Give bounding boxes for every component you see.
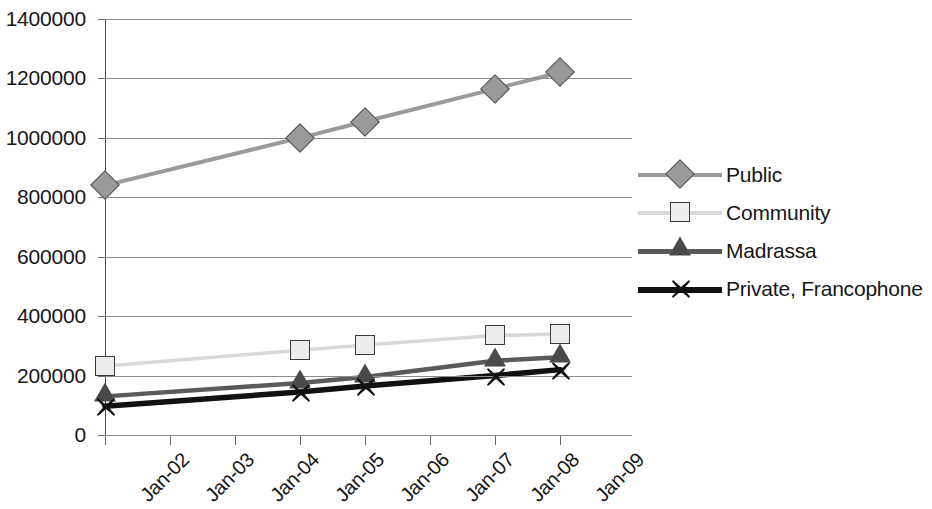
legend-item-madrassa[interactable]: Madrassa — [638, 231, 932, 269]
data-point-marker — [545, 58, 575, 88]
x-tick-label: Jan-09 — [591, 449, 647, 505]
marker-layer — [105, 19, 632, 435]
y-tick-label: 1400000 — [6, 8, 96, 29]
data-point-marker — [480, 74, 510, 104]
x-tick-label: Jan-03 — [201, 449, 257, 505]
data-point-marker — [354, 375, 376, 397]
y-tick-label: 200000 — [17, 365, 96, 386]
data-point-marker — [290, 340, 310, 360]
x-tick-mark — [235, 436, 236, 445]
data-point-marker — [485, 325, 505, 345]
x-tick-mark — [560, 436, 561, 445]
x-tick-mark — [300, 436, 301, 445]
x-tick-mark — [365, 436, 366, 445]
x-tick-label: Jan-05 — [331, 449, 387, 505]
data-point-marker — [484, 365, 506, 387]
legend-marker-x — [669, 277, 691, 299]
chart-legend: PublicCommunityMadrassaPrivate, Francoph… — [638, 155, 932, 307]
legend-key — [638, 273, 722, 303]
y-tick-label: 400000 — [17, 305, 96, 326]
y-tick-label: 1000000 — [6, 127, 96, 148]
data-point-marker — [484, 347, 506, 366]
y-tick-label: 0 — [75, 424, 96, 445]
x-tick-label: Jan-04 — [266, 449, 322, 505]
x-tick-mark — [170, 436, 171, 445]
data-point-marker — [350, 107, 380, 137]
y-axis-tick-labels: 1400000120000010000008000006000004000002… — [0, 0, 96, 509]
data-point-marker — [94, 395, 116, 417]
data-point-marker — [550, 324, 570, 344]
y-tick-label: 1200000 — [6, 67, 96, 88]
legend-label: Public — [726, 164, 782, 185]
legend-item-private-francophone[interactable]: Private, Francophone — [638, 269, 932, 307]
y-tick-label: 600000 — [17, 246, 96, 267]
x-tick-label: Jan-02 — [136, 449, 192, 505]
line-chart: 1400000120000010000008000006000004000002… — [0, 0, 932, 509]
legend-label: Madrassa — [726, 240, 817, 261]
legend-item-public[interactable]: Public — [638, 155, 932, 193]
legend-marker-diamond — [665, 159, 695, 189]
plot-area — [105, 19, 632, 435]
x-tick-label: Jan-07 — [461, 449, 517, 505]
data-point-marker — [95, 356, 115, 376]
x-tick-label: Jan-08 — [526, 449, 582, 505]
x-tick-mark — [430, 436, 431, 445]
legend-label: Community — [726, 202, 830, 223]
legend-key — [638, 235, 722, 265]
data-point-marker — [549, 359, 571, 381]
x-tick-label: Jan-06 — [396, 449, 452, 505]
legend-key — [638, 159, 722, 189]
legend-marker-square — [670, 202, 690, 222]
x-tick-mark — [495, 436, 496, 445]
gridline — [105, 435, 632, 436]
legend-key — [638, 197, 722, 227]
legend-item-community[interactable]: Community — [638, 193, 932, 231]
legend-marker-triangle — [669, 237, 691, 256]
data-point-marker — [289, 381, 311, 403]
y-tick-label: 800000 — [17, 186, 96, 207]
x-tick-mark — [105, 436, 106, 445]
data-point-marker — [355, 335, 375, 355]
legend-label: Private, Francophone — [726, 278, 923, 299]
data-point-marker — [285, 123, 315, 153]
